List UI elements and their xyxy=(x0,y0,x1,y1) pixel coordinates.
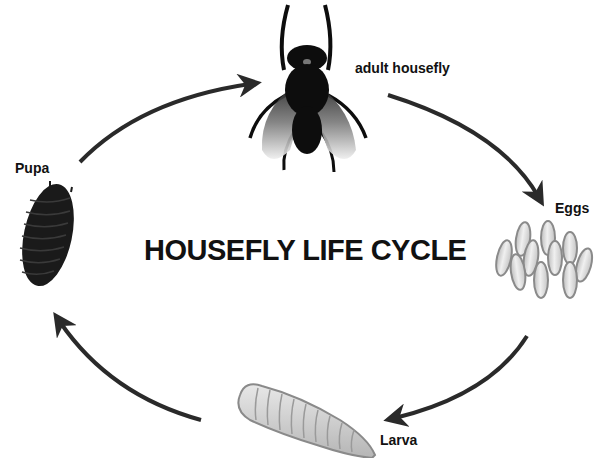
larva-icon xyxy=(238,384,375,458)
eggs-icon xyxy=(493,221,595,298)
stage-label-eggs: Eggs xyxy=(555,200,589,216)
arrow-eggs-to-larva xyxy=(395,336,527,418)
pupa-icon xyxy=(14,179,83,291)
arrow-adult-to-eggs xyxy=(388,95,538,196)
stage-label-pupa: Pupa xyxy=(15,160,49,176)
stage-label-larva: Larva xyxy=(380,432,417,448)
fly-icon xyxy=(250,5,366,172)
stage-label-adult: adult housefly xyxy=(355,60,450,76)
diagram-title: HOUSEFLY LIFE CYCLE xyxy=(144,234,466,267)
life-cycle-diagram: HOUSEFLY LIFE CYCLE adult housefly Eggs … xyxy=(0,0,607,458)
arrow-pupa-to-adult xyxy=(80,84,250,162)
arrow-larva-to-pupa xyxy=(60,322,201,420)
diagram-artwork xyxy=(0,0,607,458)
